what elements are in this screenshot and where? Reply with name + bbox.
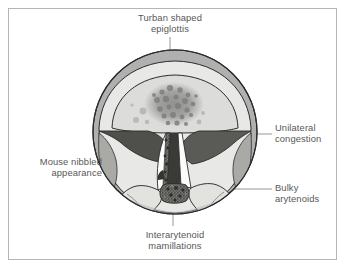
interarytenoid-region <box>160 184 189 204</box>
label-interarytenoid-mamillations: Interarytenoid mamillations <box>112 229 238 252</box>
figure-root: Turban shaped epiglottis Unilateral cong… <box>0 0 346 269</box>
label-unilateral-congestion: Unilateral congestion <box>275 122 343 145</box>
label-mouse-nibbled-appearance: Mouse nibbled appearance <box>12 156 102 179</box>
label-turban-shaped-epiglottis: Turban shaped epiglottis <box>103 12 237 35</box>
label-bulky-arytenoids: Bulky arytenoids <box>275 182 343 205</box>
